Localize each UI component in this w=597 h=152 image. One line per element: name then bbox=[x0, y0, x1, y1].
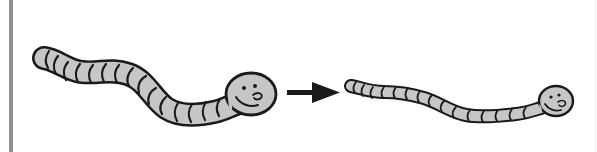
left-worm-eye-right bbox=[253, 84, 257, 88]
right-worm-eye-left bbox=[549, 95, 552, 98]
left-worm-head bbox=[226, 73, 276, 115]
worm-illustration bbox=[0, 0, 597, 152]
arrow-right-icon bbox=[287, 82, 340, 103]
left-worm-eye-left bbox=[242, 86, 246, 90]
right-worm-eye-right bbox=[557, 93, 560, 96]
right-worm bbox=[351, 82, 573, 122]
left-worm bbox=[44, 51, 276, 122]
